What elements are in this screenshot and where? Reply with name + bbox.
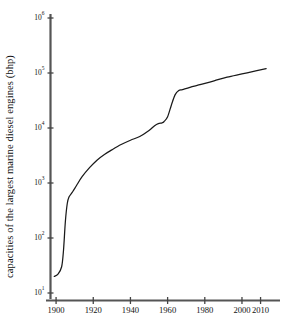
data-series-line — [54, 69, 266, 277]
y-tick-label: 106 — [34, 14, 44, 22]
chart-figure: capacities of the largest marine diesel … — [0, 0, 290, 333]
plot-canvas — [0, 0, 290, 333]
x-tick-label: 1980 — [185, 306, 225, 315]
x-tick-label: 1920 — [73, 306, 113, 315]
x-tick-label: 1960 — [148, 306, 188, 315]
y-tick-label: 102 — [34, 234, 44, 242]
x-tick-label: 1900 — [36, 306, 76, 315]
y-tick-label: 105 — [34, 69, 44, 77]
x-tick-label: 1940 — [110, 306, 150, 315]
y-tick-label: 101 — [34, 289, 44, 297]
y-tick-label: 103 — [34, 179, 44, 187]
y-tick-label: 104 — [34, 124, 44, 132]
x-tick-label: 2010 — [241, 306, 281, 315]
